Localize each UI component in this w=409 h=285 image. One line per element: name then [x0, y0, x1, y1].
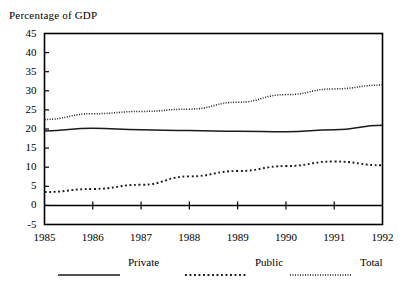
x-tick-label: 1986 — [73, 231, 113, 243]
series-line-private — [45, 125, 383, 131]
chart-figure: Percentage of GDP -5051015202530354045 1… — [0, 0, 409, 285]
x-tick-label: 1988 — [169, 231, 209, 243]
y-tick-label: -5 — [15, 218, 37, 230]
legend-swatch-total — [290, 263, 352, 266]
x-tick-label: 1991 — [314, 231, 354, 243]
y-tick-label: 10 — [15, 160, 37, 172]
legend-label: Total — [360, 256, 382, 268]
x-tick-label: 1987 — [121, 231, 161, 243]
y-tick-label: 45 — [15, 27, 37, 39]
x-tick-label: 1985 — [25, 231, 65, 243]
x-tick-label: 1992 — [363, 231, 403, 243]
legend-label: Private — [128, 256, 159, 268]
legend-swatch-private — [58, 263, 120, 266]
chart-legend: PrivatePublicTotal — [0, 255, 409, 277]
y-tick-label: 15 — [15, 141, 37, 153]
x-tick-label: 1990 — [266, 231, 306, 243]
y-tick-label: 30 — [15, 84, 37, 96]
y-tick-label: 35 — [15, 65, 37, 77]
y-tick-label: 25 — [15, 103, 37, 115]
x-tick-label: 1989 — [218, 231, 258, 243]
series-line-total — [45, 85, 383, 119]
plot-frame — [45, 34, 383, 225]
y-tick-label: 20 — [15, 122, 37, 134]
y-tick-label: 5 — [15, 179, 37, 191]
legend-swatch-public — [185, 263, 247, 266]
legend-label: Public — [255, 256, 283, 268]
series-line-public — [45, 161, 383, 192]
y-tick-label: 0 — [15, 198, 37, 210]
y-tick-label: 40 — [15, 46, 37, 58]
